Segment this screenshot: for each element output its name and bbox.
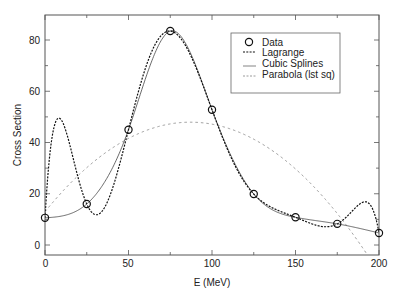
y-tick-label: 80 [29, 35, 41, 46]
y-tick-label: 0 [34, 240, 40, 251]
x-tick-label: 50 [122, 258, 134, 269]
legend-label-cubic-splines: Cubic Splines [262, 58, 323, 69]
legend-label-parabola: Parabola (lst sq) [262, 69, 335, 80]
x-tick-label: 150 [287, 258, 304, 269]
y-axis-title: Cross Section [12, 104, 23, 166]
cross-section-chart: 0 20 40 60 80 0 50 100 150 200 E (MeV) C… [0, 0, 399, 301]
legend-label-lagrange: Lagrange [262, 47, 305, 58]
x-tick-label: 100 [204, 258, 221, 269]
x-tick-label: 200 [371, 258, 388, 269]
x-tick-label: 0 [43, 258, 49, 269]
y-tick-label: 60 [29, 86, 41, 97]
y-tick-label: 20 [29, 188, 41, 199]
legend: Data Lagrange Cubic Splines Parabola (ls… [231, 33, 340, 93]
x-axis-title: E (MeV) [194, 277, 231, 288]
y-tick-label: 40 [29, 137, 41, 148]
